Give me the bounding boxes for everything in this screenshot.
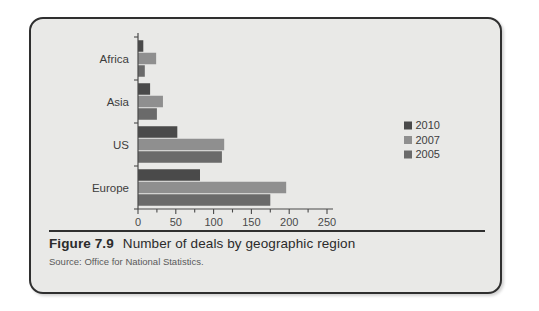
chart-plot-area: AfricaAsiaUSEurope 050100150200250 20102… <box>31 19 504 229</box>
x-tick-label-200: 200 <box>280 216 298 228</box>
legend-label-2007: 2007 <box>416 134 440 146</box>
legend-swatch-2005 <box>404 151 412 159</box>
category-labels: AfricaAsiaUSEurope <box>92 53 130 194</box>
legend-label-2005: 2005 <box>416 148 440 160</box>
chart-legend: 201020072005 <box>404 119 440 160</box>
x-tick-label-50: 50 <box>170 216 182 228</box>
bar-asia-2005 <box>138 108 157 120</box>
bar-europe-2005 <box>138 194 270 206</box>
bar-chart: AfricaAsiaUSEurope 050100150200250 20102… <box>31 19 504 229</box>
bar-us-2010 <box>138 126 177 138</box>
legend-swatch-2010 <box>404 122 412 130</box>
bar-us-2007 <box>138 139 224 151</box>
caption-block: Figure 7.9Number of deals by geographic … <box>49 236 487 267</box>
category-label-us: US <box>113 139 129 151</box>
x-tick-labels: 050100150200250 <box>135 216 336 228</box>
category-label-asia: Asia <box>107 96 130 108</box>
figure-number: Figure 7.9 <box>49 236 114 251</box>
bar-africa-2005 <box>138 65 145 77</box>
bar-europe-2007 <box>138 182 286 194</box>
bar-us-2005 <box>138 151 222 163</box>
bar-africa-2007 <box>138 53 156 65</box>
category-label-africa: Africa <box>100 53 130 65</box>
x-tick-label-0: 0 <box>135 216 141 228</box>
x-tick-label-100: 100 <box>204 216 222 228</box>
x-tick-label-150: 150 <box>242 216 260 228</box>
figure-caption: Figure 7.9Number of deals by geographic … <box>49 236 487 251</box>
bar-africa-2010 <box>138 40 143 52</box>
figure-caption-text: Number of deals by geographic region <box>123 236 356 251</box>
bar-europe-2010 <box>138 169 200 181</box>
bar-asia-2007 <box>138 96 163 108</box>
category-label-europe: Europe <box>92 182 129 194</box>
bar-series-group <box>138 40 286 206</box>
figure-card: AfricaAsiaUSEurope 050100150200250 20102… <box>29 17 502 294</box>
legend-swatch-2007 <box>404 136 412 144</box>
x-tick-label-250: 250 <box>318 216 336 228</box>
caption-divider <box>49 230 485 232</box>
bar-asia-2010 <box>138 83 150 95</box>
legend-label-2010: 2010 <box>416 119 440 131</box>
figure-source: Source: Office for National Statistics. <box>49 256 487 267</box>
